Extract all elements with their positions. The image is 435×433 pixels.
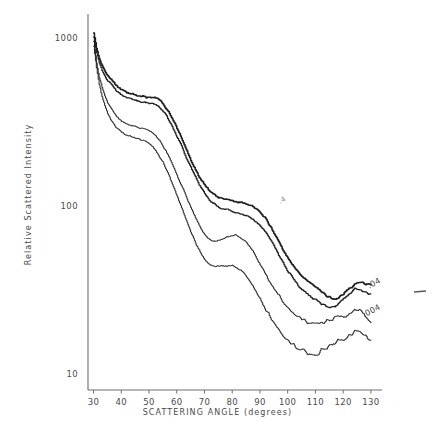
x-tick-label-30: 30 <box>88 397 100 407</box>
y-tick-label-100: 100 <box>30 201 78 211</box>
x-tick-label-100: 100 <box>279 397 296 407</box>
stray-marks <box>414 291 426 292</box>
curve-.4-duplicate <box>94 37 371 308</box>
data-curves <box>94 33 371 356</box>
right-dash-mark <box>414 291 426 292</box>
x-tick-label-40: 40 <box>115 397 127 407</box>
y-tick-label-10: 10 <box>30 369 78 379</box>
curve-.04 <box>94 41 371 323</box>
x-axis-title: SCATTERING ANGLE (degrees) <box>0 408 435 417</box>
x-tick-label-50: 50 <box>143 397 155 407</box>
x-tick-label-80: 80 <box>226 397 238 407</box>
y-axis-title: Relative Scattered Intensity <box>24 115 33 275</box>
x-tick-label-120: 120 <box>334 397 351 407</box>
x-tick-label-130: 130 <box>362 397 379 407</box>
x-tick-label-90: 90 <box>254 397 266 407</box>
x-tick-label-110: 110 <box>307 397 324 407</box>
x-tick-label-70: 70 <box>199 397 211 407</box>
x-tick-label-60: 60 <box>171 397 183 407</box>
scattering-chart-figure: 30405060708090100110120130 101001000 .4.… <box>0 0 435 433</box>
curve-.4 <box>94 33 371 299</box>
y-tick-label-1000: 1000 <box>30 33 78 43</box>
